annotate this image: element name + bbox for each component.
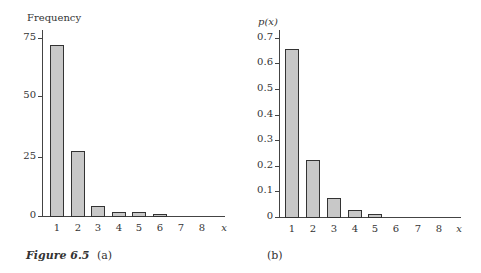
- x-tick-label: 1: [285, 223, 299, 234]
- y-axis-label: Frequency: [27, 12, 81, 23]
- y-tick-label: 0.6: [243, 56, 273, 67]
- x-tick-label: 2: [306, 223, 320, 234]
- bar-4: [348, 210, 362, 218]
- y-tick-label: 75: [6, 31, 36, 42]
- y-axis: [279, 30, 280, 218]
- bar-5: [132, 212, 146, 217]
- y-tick: [38, 96, 42, 97]
- y-tick-label: 0.2: [243, 159, 273, 170]
- y-tick: [275, 140, 279, 141]
- y-tick-label: 0.3: [243, 133, 273, 144]
- y-tick-label: 0.5: [243, 82, 273, 93]
- bar-3: [91, 206, 105, 217]
- y-tick-label: 0.4: [243, 108, 273, 119]
- x-tick-label: 4: [112, 222, 126, 233]
- y-tick-label: 0: [243, 210, 273, 221]
- bar-3: [327, 198, 341, 218]
- x-tick-label: 3: [91, 222, 105, 233]
- bar-6: [153, 214, 167, 217]
- y-tick-label: 0.1: [243, 184, 273, 195]
- y-tick-label: 50: [6, 89, 36, 100]
- figure-label: Figure 6.5: [26, 249, 89, 262]
- y-axis: [42, 30, 43, 217]
- x-tick-label: 7: [174, 222, 188, 233]
- bar-1: [285, 49, 299, 218]
- y-tick-label: 0.7: [243, 31, 273, 42]
- y-axis-label: p(x): [258, 16, 278, 27]
- y-tick: [275, 115, 279, 116]
- x-axis-label: x: [217, 222, 231, 233]
- x-tick-label: 5: [368, 223, 382, 234]
- x-axis-label: x: [452, 223, 466, 234]
- caption-a: (a): [97, 249, 112, 262]
- x-tick-label: 6: [153, 222, 167, 233]
- y-tick: [38, 38, 42, 39]
- bar-1: [50, 45, 64, 217]
- bar-4: [112, 212, 126, 217]
- bar-5: [368, 214, 382, 218]
- x-tick-label: 4: [348, 223, 362, 234]
- x-tick-label: 6: [389, 223, 403, 234]
- x-tick-label: 7: [411, 223, 425, 234]
- y-tick: [38, 216, 42, 217]
- x-tick-label: 8: [432, 223, 446, 234]
- x-tick-label: 8: [195, 222, 209, 233]
- y-tick-label: 25: [6, 150, 36, 161]
- y-tick: [275, 38, 279, 39]
- y-tick: [275, 63, 279, 64]
- bar-2: [71, 151, 85, 217]
- x-tick-label: 1: [50, 222, 64, 233]
- y-tick: [275, 191, 279, 192]
- bar-2: [306, 160, 320, 218]
- y-tick-label: 0: [6, 209, 36, 220]
- x-tick-label: 5: [132, 222, 146, 233]
- caption-b: (b): [267, 249, 283, 262]
- y-tick: [275, 166, 279, 167]
- y-tick: [275, 89, 279, 90]
- x-tick-label: 2: [71, 222, 85, 233]
- y-tick: [275, 217, 279, 218]
- x-tick-label: 3: [327, 223, 341, 234]
- y-tick: [38, 157, 42, 158]
